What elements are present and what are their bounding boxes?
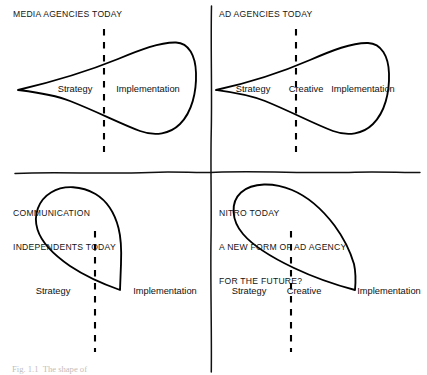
quadrant-title-line-2: A NEW FORM OF AD AGENCY xyxy=(219,242,347,253)
quadrant-title-line-1: NITRO TODAY xyxy=(219,208,347,219)
quadrant-title-media-agencies: MEDIA AGENCIES TODAY xyxy=(13,9,122,20)
quadrant-title-ad-agencies: AD AGENCIES TODAY xyxy=(219,9,313,20)
quadrant-title-communication-independents: COMMUNICATION INDEPENDENTS TODAY xyxy=(13,185,116,276)
quadrant-title-line-2: INDEPENDENTS TODAY xyxy=(13,242,116,253)
label-implementation-ad: Implementation xyxy=(331,84,395,94)
figure-container: MEDIA AGENCIES TODAY AD AGENCIES TODAY C… xyxy=(0,0,427,375)
label-implementation-communication: Implementation xyxy=(133,286,197,296)
label-strategy-nitro: Strategy xyxy=(232,286,267,296)
figure-caption: Fig. 1.1 The shape of xyxy=(12,364,87,375)
divider-vertical xyxy=(211,6,212,372)
quadrant-title-line-1: COMMUNICATION xyxy=(13,208,116,219)
label-implementation-nitro: Implementation xyxy=(357,286,421,296)
divider-horizontal xyxy=(15,172,420,174)
label-implementation-media: Implementation xyxy=(116,84,180,94)
label-creative-ad: Creative xyxy=(289,84,324,94)
label-strategy-media: Strategy xyxy=(58,84,93,94)
label-strategy-ad: Strategy xyxy=(236,84,271,94)
label-strategy-communication: Strategy xyxy=(36,286,71,296)
label-creative-nitro: Creative xyxy=(287,286,322,296)
